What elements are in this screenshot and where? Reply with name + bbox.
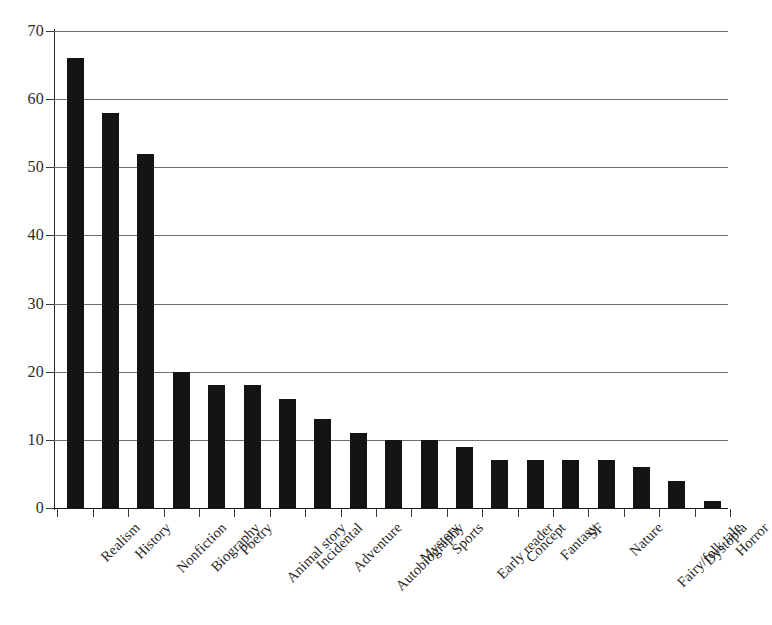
plot-area bbox=[54, 31, 728, 508]
x-label-text: Poetry bbox=[237, 520, 275, 558]
x-tick-mark bbox=[199, 509, 200, 517]
y-tick-mark-60 bbox=[46, 99, 54, 100]
x-axis-label: Poetry bbox=[237, 520, 275, 558]
x-tick-mark bbox=[518, 509, 519, 517]
bar bbox=[491, 460, 508, 508]
bar bbox=[173, 372, 190, 508]
bar bbox=[314, 419, 331, 508]
y-tick-label-0: 0 bbox=[4, 500, 44, 516]
y-tick-label-70: 70 bbox=[4, 23, 44, 39]
x-tick-mark bbox=[447, 509, 448, 517]
x-tick-mark bbox=[234, 509, 235, 517]
bar bbox=[102, 113, 119, 508]
y-tick-mark-70 bbox=[46, 31, 54, 32]
gridline-20 bbox=[54, 372, 728, 373]
bar bbox=[208, 385, 225, 508]
x-tick-mark bbox=[695, 509, 696, 517]
x-label-text: Realism bbox=[98, 520, 143, 565]
y-tick-mark-40 bbox=[46, 235, 54, 236]
bar bbox=[704, 501, 721, 508]
bar bbox=[385, 440, 402, 508]
bar bbox=[279, 399, 296, 508]
x-axis-label: Realism bbox=[98, 520, 143, 565]
bar bbox=[456, 447, 473, 508]
x-tick-mark bbox=[482, 509, 483, 517]
y-tick-mark-20 bbox=[46, 372, 54, 373]
bar bbox=[668, 481, 685, 508]
gridline-50 bbox=[54, 167, 728, 168]
bar bbox=[350, 433, 367, 508]
bar bbox=[137, 154, 154, 508]
gridline-40 bbox=[54, 235, 728, 236]
gridline-0 bbox=[54, 508, 728, 509]
y-tick-label-40: 40 bbox=[4, 227, 44, 243]
x-tick-mark bbox=[376, 509, 377, 517]
bar bbox=[633, 467, 650, 508]
x-tick-mark bbox=[305, 509, 306, 517]
x-tick-mark bbox=[57, 509, 58, 517]
bar bbox=[244, 385, 261, 508]
y-tick-label-20: 20 bbox=[4, 364, 44, 380]
y-tick-mark-50 bbox=[46, 167, 54, 168]
bar bbox=[598, 460, 615, 508]
gridline-60 bbox=[54, 99, 728, 100]
bar bbox=[421, 440, 438, 508]
x-tick-mark bbox=[588, 509, 589, 517]
x-tick-mark bbox=[411, 509, 412, 517]
x-tick-mark bbox=[270, 509, 271, 517]
y-axis-tick-labels: 010203040506070 bbox=[0, 0, 44, 625]
x-tick-mark bbox=[128, 509, 129, 517]
y-tick-label-30: 30 bbox=[4, 296, 44, 312]
y-tick-label-60: 60 bbox=[4, 91, 44, 107]
x-tick-mark-end bbox=[730, 509, 731, 517]
bar bbox=[562, 460, 579, 508]
bar bbox=[527, 460, 544, 508]
y-tick-label-10: 10 bbox=[4, 432, 44, 448]
x-tick-mark bbox=[93, 509, 94, 517]
y-tick-mark-10 bbox=[46, 440, 54, 441]
x-tick-mark bbox=[341, 509, 342, 517]
x-tick-mark bbox=[553, 509, 554, 517]
x-tick-mark bbox=[624, 509, 625, 517]
x-label-text: Nature bbox=[627, 520, 666, 559]
bar bbox=[67, 58, 84, 508]
y-tick-label-50: 50 bbox=[4, 159, 44, 175]
x-axis-label: Nature bbox=[627, 520, 666, 559]
y-tick-mark-30 bbox=[46, 304, 54, 305]
x-tick-mark bbox=[164, 509, 165, 517]
x-tick-mark bbox=[659, 509, 660, 517]
y-tick-mark-0 bbox=[46, 508, 54, 509]
gridline-30 bbox=[54, 304, 728, 305]
gridline-70 bbox=[54, 31, 728, 32]
